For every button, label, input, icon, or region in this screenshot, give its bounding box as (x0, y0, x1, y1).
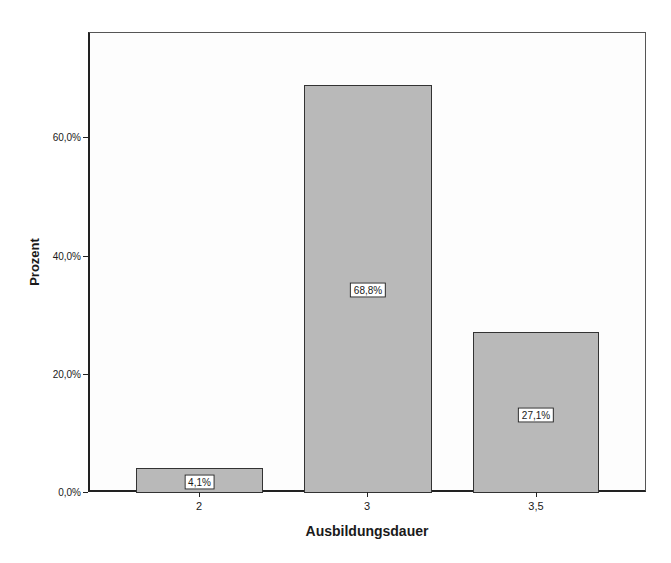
bar-3: 68,8% (304, 85, 432, 493)
bar-value-label: 4,1% (184, 475, 215, 490)
x-tick-label-2: 2 (196, 500, 202, 512)
y-tick-60 (83, 137, 88, 138)
y-tick-label-40: 40,0% (53, 251, 81, 262)
x-tick-2 (199, 492, 200, 497)
x-tick-3 (367, 492, 368, 497)
x-tick-label-3: 3 (364, 500, 370, 512)
bar-chart: 0,0% 20,0% 40,0% 60,0% 4,1% 68,8% 27,1% … (0, 0, 671, 563)
y-tick-40 (83, 256, 88, 257)
x-tick-3-5 (536, 492, 537, 497)
y-tick-label-0: 0,0% (58, 487, 81, 498)
y-axis-title: Prozent (27, 238, 42, 286)
bar-value-label: 27,1% (518, 408, 554, 423)
bar-2: 4,1% (136, 468, 263, 493)
x-axis-title: Ausbildungsdauer (306, 523, 429, 539)
y-tick-label-60: 60,0% (53, 132, 81, 143)
x-tick-label-3-5: 3,5 (528, 500, 543, 512)
y-tick-label-20: 20,0% (53, 369, 81, 380)
y-tick-0 (83, 492, 88, 493)
y-tick-20 (83, 374, 88, 375)
bar-3-5: 27,1% (473, 332, 599, 493)
bar-value-label: 68,8% (350, 283, 386, 298)
